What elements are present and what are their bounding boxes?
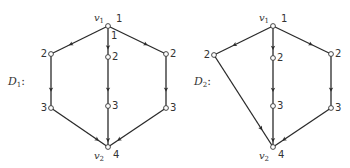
nodes-layer xyxy=(49,24,334,150)
node-number-label: 3 xyxy=(41,102,47,113)
node-number-label: 4 xyxy=(278,149,284,160)
node-number-label: 2 xyxy=(204,49,210,60)
edge-v1-R2 xyxy=(273,26,331,54)
node-number-label: 3 xyxy=(112,100,118,111)
node-number-label: 2 xyxy=(335,48,341,59)
node-number-label: 4 xyxy=(113,149,119,160)
node-number-label: 2 xyxy=(41,48,47,59)
node-v2 xyxy=(271,145,276,150)
edge-weight-label: 1 xyxy=(111,30,117,41)
node-number-label: 3 xyxy=(170,102,176,113)
edge-v1-L2 xyxy=(214,26,273,55)
vertex-name-v2: v2 xyxy=(259,150,269,163)
node-R3 xyxy=(329,106,334,111)
node-v1 xyxy=(271,24,276,29)
node-number-label: 1 xyxy=(116,13,122,24)
edge-R3-v2 xyxy=(273,108,331,147)
vertex-name-v1: v1 xyxy=(259,12,269,25)
node-number-label: 2 xyxy=(277,52,283,63)
node-L2 xyxy=(212,53,217,58)
node-number-label: 2 xyxy=(112,51,118,62)
diagram-label-d2: D2: xyxy=(193,75,211,89)
node-C2 xyxy=(106,55,111,60)
diagram-label-d1: D1: xyxy=(7,75,25,89)
node-C2 xyxy=(271,56,276,61)
edge-L3-v2 xyxy=(51,108,108,147)
edge-L2-v2 xyxy=(214,55,273,147)
node-C3 xyxy=(106,104,111,109)
node-R2 xyxy=(164,52,169,57)
edge-v1-L2 xyxy=(51,26,108,54)
node-L3 xyxy=(49,106,54,111)
node-number-label: 3 xyxy=(335,102,341,113)
node-number-label: 3 xyxy=(277,100,283,111)
node-v1 xyxy=(106,24,111,29)
node-v2 xyxy=(106,145,111,150)
node-C3 xyxy=(271,104,276,109)
node-R2 xyxy=(329,52,334,57)
node-number-label: 2 xyxy=(170,48,176,59)
diagram-canvas: D1:1v12323234v21D2:1v1223234v2 xyxy=(0,0,350,168)
vertex-name-v1: v1 xyxy=(94,12,104,25)
edges-layer xyxy=(49,26,333,147)
vertex-name-v2: v2 xyxy=(94,150,104,163)
edge-R3-v2 xyxy=(108,108,166,147)
node-number-label: 1 xyxy=(281,13,287,24)
node-R3 xyxy=(164,106,169,111)
node-L2 xyxy=(49,52,54,57)
